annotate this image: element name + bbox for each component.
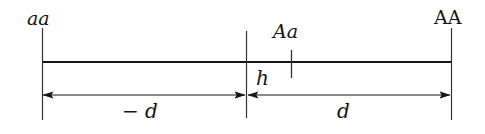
label-distance-h: h — [256, 68, 269, 88]
label-distance-minus-d: − d — [122, 101, 158, 121]
label-genotype-AA: AA — [434, 8, 461, 27]
diagram-canvas — [0, 0, 485, 134]
label-genotype-aa: aa — [27, 9, 50, 28]
label-genotype-Aa: Aa — [273, 22, 298, 41]
genotypic-scale-figure: aa Aa AA − d d h — [0, 0, 485, 134]
label-distance-d: d — [337, 101, 350, 121]
